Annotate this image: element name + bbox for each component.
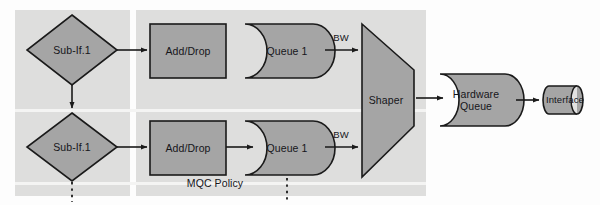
subif-bottom-shape[interactable] bbox=[27, 113, 117, 181]
bw-bottom-label: BW bbox=[324, 129, 358, 140]
diagram-shapes bbox=[0, 0, 600, 205]
bw-top-label: BW bbox=[324, 32, 358, 43]
diagram-canvas: Sub-If.1 Sub-If.1 Add/Drop Add/Drop Queu… bbox=[0, 0, 600, 205]
adddrop-top-shape[interactable] bbox=[150, 24, 226, 78]
queue-bottom-shape[interactable] bbox=[245, 121, 335, 175]
shaper-shape[interactable] bbox=[362, 24, 414, 177]
subif-top-shape[interactable] bbox=[27, 15, 117, 85]
adddrop-bottom-shape[interactable] bbox=[150, 121, 226, 175]
mqc-policy-panel-label: MQC Policy bbox=[160, 177, 270, 189]
queue-top-shape[interactable] bbox=[245, 24, 335, 78]
hardware-queue-shape[interactable] bbox=[440, 74, 524, 126]
